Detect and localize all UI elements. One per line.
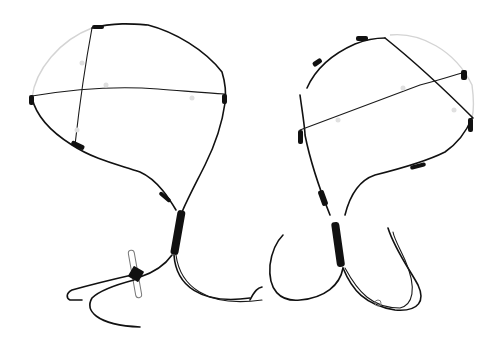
wire-harness-illustration <box>0 0 500 345</box>
right-wire-harness <box>250 35 474 311</box>
left-wire-harness <box>29 24 262 327</box>
product-photo <box>0 0 500 345</box>
